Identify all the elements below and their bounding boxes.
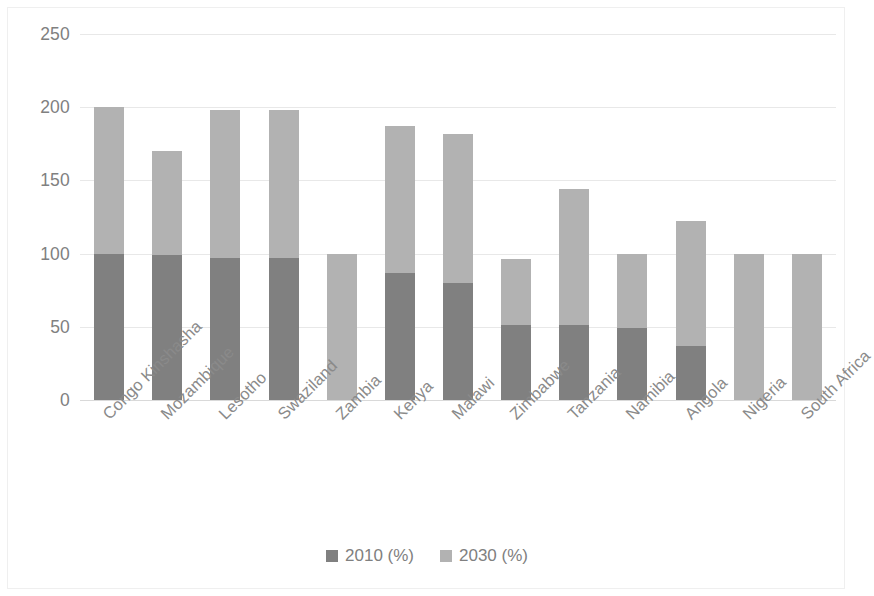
chart-legend: 2010 (%)2030 (%): [8, 546, 846, 566]
value-axis-tick-label: 0: [10, 390, 70, 411]
legend-swatch-icon: [326, 550, 338, 562]
bar-segment-2010[interactable]: [443, 283, 473, 400]
bar-segment-2030[interactable]: [501, 259, 531, 325]
value-axis-tick-label: 200: [10, 97, 70, 118]
bar-segment-2010[interactable]: [385, 273, 415, 400]
bar-segment-2030[interactable]: [94, 107, 124, 253]
bar-segment-2010[interactable]: [94, 254, 124, 400]
bar-segment-2030[interactable]: [617, 254, 647, 329]
bar-segment-2030[interactable]: [792, 254, 822, 400]
bar-group[interactable]: [269, 110, 299, 400]
bar-segment-2030[interactable]: [269, 110, 299, 258]
value-axis-tick-label: 50: [10, 316, 70, 337]
bar-segment-2030[interactable]: [152, 151, 182, 255]
value-axis-tick-label: 100: [10, 243, 70, 264]
value-axis-tick-label: 150: [10, 170, 70, 191]
category-axis: Congo KinshashaMozambiqueLesothoSwazilan…: [80, 404, 836, 524]
bar-group[interactable]: [734, 254, 764, 400]
bars-layer: [80, 34, 836, 400]
bar-segment-2030[interactable]: [734, 254, 764, 400]
bar-segment-2030[interactable]: [676, 221, 706, 345]
legend-item[interactable]: 2030 (%): [440, 546, 528, 566]
bar-group[interactable]: [443, 134, 473, 400]
bar-group[interactable]: [385, 126, 415, 400]
bar-segment-2010[interactable]: [269, 258, 299, 400]
chart-container: 250200150100500 Congo KinshashaMozambiqu…: [7, 7, 845, 589]
bar-group[interactable]: [501, 259, 531, 400]
bar-group[interactable]: [676, 221, 706, 400]
legend-item[interactable]: 2010 (%): [326, 546, 414, 566]
value-axis: 250200150100500: [8, 34, 70, 400]
legend-swatch-icon: [440, 550, 452, 562]
bar-segment-2030[interactable]: [385, 126, 415, 272]
bar-segment-2030[interactable]: [559, 189, 589, 325]
legend-label: 2010 (%): [345, 546, 414, 566]
bar-segment-2030[interactable]: [443, 134, 473, 283]
plot-area: [80, 34, 836, 400]
bar-group[interactable]: [792, 254, 822, 400]
legend-label: 2030 (%): [459, 546, 528, 566]
bar-segment-2030[interactable]: [210, 110, 240, 258]
value-axis-tick-label: 250: [10, 24, 70, 45]
bar-group[interactable]: [94, 107, 124, 400]
